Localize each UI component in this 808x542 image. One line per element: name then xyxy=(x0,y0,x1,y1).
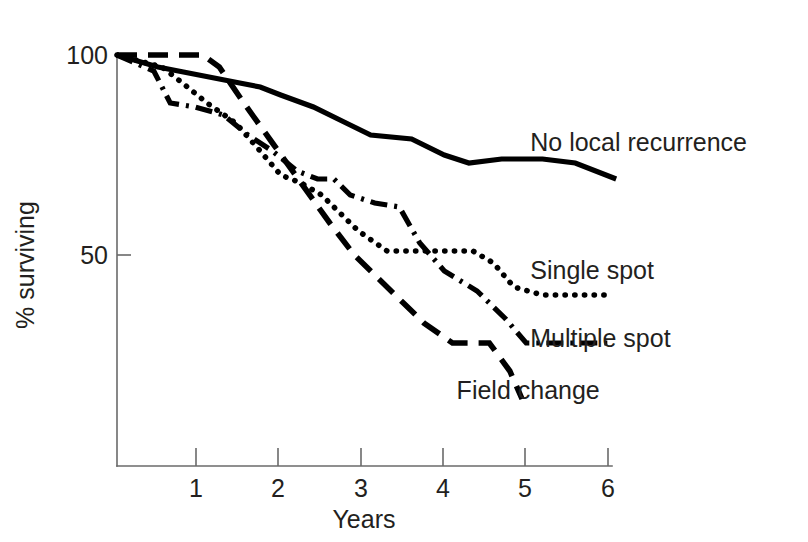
x-tick-label-4: 4 xyxy=(436,474,450,502)
y-axis-title: % surviving xyxy=(11,201,39,329)
x-tick-label-2: 2 xyxy=(271,474,285,502)
chart-svg: 100 50 1 2 3 4 5 6 Years % surviving No … xyxy=(0,0,808,542)
y-tick-label-100: 100 xyxy=(66,41,108,69)
x-tick-label-5: 5 xyxy=(518,474,532,502)
series-label-single-spot: Single spot xyxy=(530,256,654,284)
survival-chart-figure: 100 50 1 2 3 4 5 6 Years % surviving No … xyxy=(0,0,808,542)
series-label-multiple-spot: Multiple spot xyxy=(530,324,670,352)
series-line-no-local-recurrence xyxy=(117,55,616,179)
series-label-no-local-recurrence: No local recurrence xyxy=(530,128,747,156)
series-line-multiple-spot xyxy=(117,55,608,343)
y-tick-label-50: 50 xyxy=(80,241,108,269)
x-axis-ticks xyxy=(196,448,608,466)
x-axis-title: Years xyxy=(332,505,395,533)
x-tick-label-1: 1 xyxy=(189,474,203,502)
y-axis-ticks xyxy=(117,55,131,255)
x-tick-label-6: 6 xyxy=(601,474,615,502)
series-label-field-change: Field change xyxy=(457,376,600,404)
x-tick-label-3: 3 xyxy=(354,474,368,502)
